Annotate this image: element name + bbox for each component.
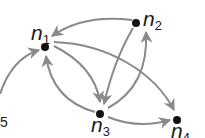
edge-n3-n1: [46, 56, 95, 112]
node-n2-label: n2: [143, 7, 162, 33]
node-n2-dot: [132, 19, 140, 27]
node-n4-label: n4: [171, 119, 190, 138]
node-n5-partial-label: 5: [0, 114, 8, 130]
graph-diagram: n1 n2 n3 n4 5: [0, 0, 205, 138]
edge-n2-n1: [52, 19, 132, 36]
node-n1-label: n1: [31, 21, 50, 47]
edge-n3-n4: [108, 117, 170, 124]
graph-svg: n1 n2 n3 n4 5: [0, 0, 205, 138]
edge-n1-n3: [54, 46, 100, 102]
edge-n5-n1: [0, 50, 39, 94]
edge-n1-n4: [54, 42, 174, 110]
node-n3-label: n3: [91, 113, 110, 138]
